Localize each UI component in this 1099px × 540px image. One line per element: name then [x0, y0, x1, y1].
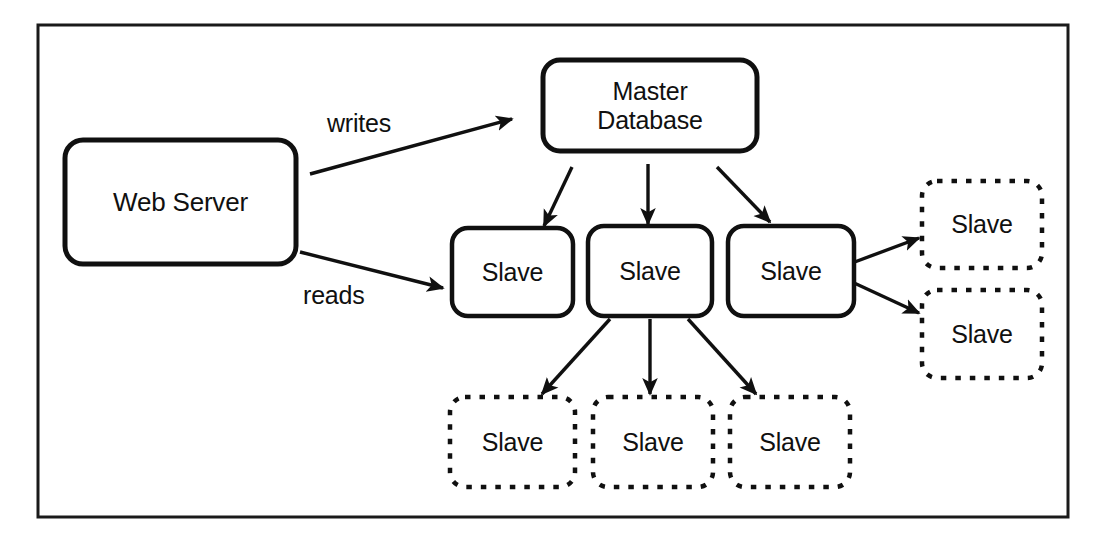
node-web-server[interactable] — [65, 140, 296, 264]
writes-label: writes — [327, 109, 391, 138]
node-slave-mid-3[interactable] — [728, 226, 854, 316]
node-slave-mid-2[interactable] — [588, 226, 712, 316]
node-shape-layer — [65, 60, 1042, 487]
edge-slave-mid-3-to-right-2 — [852, 282, 919, 313]
edge-slave-mid-2-to-bottom-3 — [688, 319, 756, 394]
edge-slave-mid-2-to-bottom-1 — [542, 319, 610, 394]
node-slave-right-1[interactable] — [922, 181, 1042, 268]
node-slave-bottom-2[interactable] — [593, 397, 713, 487]
edge-slave-mid-3-to-right-1 — [852, 238, 919, 263]
diagram-vector-layer — [0, 0, 1099, 540]
reads-label: reads — [303, 281, 365, 310]
edge-master-to-slave-3 — [717, 167, 770, 222]
diagram-canvas: Web ServerMaster DatabaseSlaveSlaveSlave… — [0, 0, 1099, 540]
node-slave-bottom-3[interactable] — [730, 397, 850, 487]
node-master-database[interactable] — [543, 60, 757, 151]
edge-master-to-slave-1 — [544, 167, 572, 226]
node-slave-bottom-1[interactable] — [450, 397, 575, 487]
node-slave-mid-1[interactable] — [452, 228, 573, 316]
node-slave-right-2[interactable] — [922, 290, 1042, 378]
